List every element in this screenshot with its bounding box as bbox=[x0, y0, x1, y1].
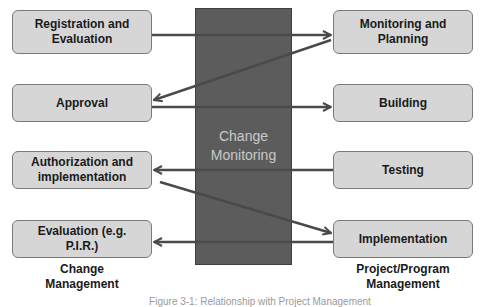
arrow-monitoring-to-approval bbox=[154, 40, 331, 100]
group-label-line1: Project/Program bbox=[333, 262, 473, 277]
box-evaluation-pir: Evaluation (e.g.P.I.R.) bbox=[12, 220, 152, 258]
box-building: Building bbox=[333, 84, 473, 122]
box-registration-and-evaluation: Registration andEvaluation bbox=[12, 10, 152, 54]
box-implementation: Implementation bbox=[333, 220, 473, 258]
box-approval: Approval bbox=[12, 84, 152, 122]
box-text-line1: Evaluation (e.g. bbox=[38, 224, 127, 239]
box-text-line2: Evaluation bbox=[35, 32, 130, 47]
box-authorization-and-implementation: Authorization andimplementation bbox=[12, 151, 152, 189]
group-label-line1: Change bbox=[12, 262, 152, 277]
box-text-line2: implementation bbox=[31, 170, 133, 185]
box-text-line1: Authorization and bbox=[31, 155, 133, 170]
change-management-label: Change Management bbox=[12, 262, 152, 292]
arrow-authorization-to-implementation bbox=[160, 182, 331, 233]
box-text-line2: Planning bbox=[360, 32, 447, 47]
group-label-line2: Management bbox=[333, 277, 473, 292]
box-monitoring-and-planning: Monitoring andPlanning bbox=[333, 10, 473, 54]
box-text-line1: Approval bbox=[56, 96, 108, 111]
box-text-line1: Registration and bbox=[35, 17, 130, 32]
box-text-line1: Building bbox=[379, 96, 427, 111]
project-program-management-label: Project/Program Management bbox=[333, 262, 473, 292]
group-label-line2: Management bbox=[12, 277, 152, 292]
box-text-line2: P.I.R.) bbox=[38, 239, 127, 254]
figure-caption: Figure 3-1: Relationship with Project Ma… bbox=[120, 296, 400, 307]
box-text-line1: Implementation bbox=[359, 232, 448, 247]
box-testing: Testing bbox=[333, 151, 473, 189]
box-text-line1: Testing bbox=[382, 163, 424, 178]
box-text-line1: Monitoring and bbox=[360, 17, 447, 32]
